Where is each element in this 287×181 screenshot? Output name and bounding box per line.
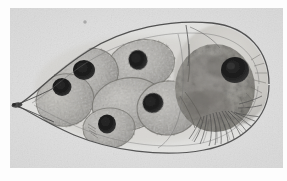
micrograph-plate	[10, 8, 283, 168]
micrograph-canvas	[10, 8, 283, 168]
screenshot-root: rotifer-or-cladoceran-female-with-develo…	[0, 0, 287, 181]
film-grain-overlay	[10, 8, 283, 168]
